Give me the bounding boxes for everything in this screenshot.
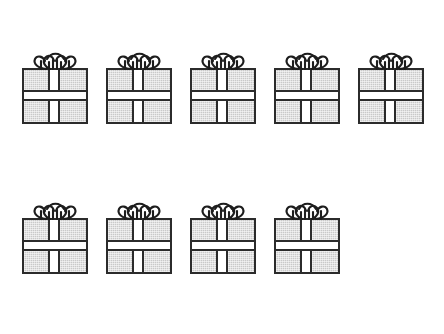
illustration-canvas xyxy=(0,0,444,334)
gift-box-3 xyxy=(190,49,256,107)
gift-box-5 xyxy=(358,49,424,107)
gift-bow-icon xyxy=(366,48,416,71)
gift-ribbon-horizontal xyxy=(108,240,170,251)
gift-box-8 xyxy=(190,199,256,257)
gift-ribbon-horizontal xyxy=(24,240,86,251)
gift-box-4 xyxy=(274,49,340,107)
gift-ribbon-horizontal xyxy=(276,240,338,251)
gift-box-2 xyxy=(106,49,172,107)
gift-bow-icon xyxy=(282,48,332,71)
gift-box-6 xyxy=(22,199,88,257)
gift-ribbon-horizontal xyxy=(192,90,254,101)
gift-bow-icon xyxy=(198,198,248,221)
gift-box-9 xyxy=(274,199,340,257)
gift-box-7 xyxy=(106,199,172,257)
gift-bow-icon xyxy=(282,198,332,221)
gift-ribbon-horizontal xyxy=(24,90,86,101)
gift-bow-icon xyxy=(30,198,80,221)
gift-bow-icon xyxy=(30,48,80,71)
gift-ribbon-horizontal xyxy=(276,90,338,101)
gift-bow-icon xyxy=(114,48,164,71)
gift-box-1 xyxy=(22,49,88,107)
gift-bow-icon xyxy=(198,48,248,71)
gift-bow-icon xyxy=(114,198,164,221)
gift-ribbon-horizontal xyxy=(192,240,254,251)
gift-ribbon-horizontal xyxy=(360,90,422,101)
gift-ribbon-horizontal xyxy=(108,90,170,101)
